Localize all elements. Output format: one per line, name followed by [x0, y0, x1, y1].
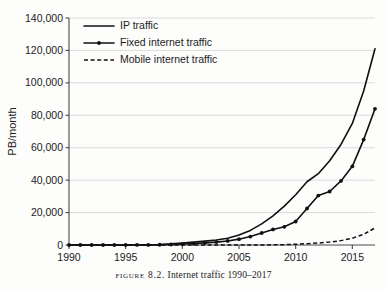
series-data-point — [305, 207, 309, 211]
chart-legend: IP trafficFixed internet trafficMobile i… — [84, 19, 217, 65]
y-tick-label: 120,000 — [25, 44, 63, 56]
series-line-fixed-internet-traffic — [69, 109, 375, 245]
legend-item-label: Mobile internet traffic — [120, 53, 217, 65]
y-tick-label: 140,000 — [25, 12, 63, 24]
x-tick-label: 2005 — [227, 251, 251, 263]
figure-caption-prefix: Figure 8.2. — [115, 270, 165, 280]
figure-caption-text: Internet traffic 1990–2017 — [168, 270, 272, 280]
x-axis: 199019952000200520102015 — [57, 245, 375, 263]
y-tick-label: 100,000 — [25, 76, 63, 88]
series-data-point — [373, 107, 377, 111]
legend-swatch-marker — [97, 41, 101, 45]
series-data-point — [260, 231, 264, 235]
y-axis: 020,00040,00060,00080,000100,000120,0001… — [25, 12, 69, 251]
y-tick-label: 40,000 — [31, 174, 63, 186]
y-tick-label: 0 — [57, 239, 63, 251]
legend-item-label: Fixed internet traffic — [120, 36, 212, 48]
x-tick-label: 1990 — [57, 251, 81, 263]
internet-traffic-line-chart: 020,00040,00060,00080,000100,000120,0001… — [0, 0, 387, 268]
figure-caption: Figure 8.2. Internet traffic 1990–2017 — [0, 270, 387, 280]
y-axis-title: PB/month — [6, 107, 18, 155]
series-data-point — [271, 228, 275, 232]
y-axis-title-label: PB/month — [6, 107, 18, 155]
series-data-point — [237, 237, 241, 241]
series-data-point — [328, 190, 332, 194]
gridlines — [69, 18, 375, 213]
x-tick-label: 2015 — [341, 251, 365, 263]
figure-container: 020,00040,00060,00080,000100,000120,0001… — [0, 0, 387, 292]
series-data-point — [362, 138, 366, 142]
series-data-point — [248, 235, 252, 239]
series-data-point — [226, 239, 230, 243]
series-line-ip-traffic — [69, 49, 375, 245]
x-tick-label: 2000 — [171, 251, 195, 263]
series-data-point — [316, 194, 320, 198]
series-data-point — [350, 164, 354, 168]
y-tick-label: 60,000 — [31, 141, 63, 153]
series-data-point — [282, 225, 286, 229]
legend-item-label: IP traffic — [120, 19, 158, 31]
y-tick-label: 80,000 — [31, 109, 63, 121]
series-data-point — [339, 179, 343, 183]
x-tick-label: 1995 — [114, 251, 138, 263]
series-data-point — [214, 240, 218, 244]
series-line-mobile-internet-traffic — [69, 228, 375, 245]
series-data-point — [203, 241, 207, 245]
x-tick-label: 2010 — [284, 251, 308, 263]
series-data-point — [294, 220, 298, 224]
y-tick-label: 20,000 — [31, 206, 63, 218]
